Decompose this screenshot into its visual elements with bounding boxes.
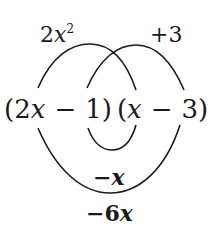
second-factor-var: x — [127, 94, 142, 124]
first-product-coef: 2 — [40, 22, 54, 47]
second-factor-op: − — [151, 94, 173, 124]
second-factor-close-paren: ) — [198, 94, 208, 124]
inner-product-label: −x — [93, 166, 125, 188]
first-factor-const: 1 — [85, 94, 102, 124]
second-factor: (x−3) — [117, 94, 208, 124]
second-factor-const: 3 — [182, 94, 199, 124]
outer-product-coef: 6 — [104, 200, 119, 226]
outer-product-sign: − — [86, 200, 104, 226]
first-factor-open-paren: ( — [4, 94, 14, 124]
last-terms-arc — [87, 45, 184, 90]
last-product-label: +3 — [150, 24, 182, 46]
first-product-var: x — [54, 22, 66, 47]
outer-product-label: −6x — [86, 202, 133, 224]
factors-row: (2x−1)(x−3) — [4, 96, 208, 122]
first-product-exponent: 2 — [66, 22, 74, 36]
first-terms-arc — [38, 44, 136, 90]
first-factor: (2x−1) — [4, 94, 112, 124]
outer-product-var: x — [120, 200, 133, 226]
first-factor-var: x — [31, 94, 46, 124]
first-factor-op: − — [54, 94, 76, 124]
inner-product-var: x — [111, 164, 124, 190]
inner-product-sign: − — [93, 164, 111, 190]
first-product-label: 2x2 — [40, 24, 74, 46]
second-factor-open-paren: ( — [117, 94, 127, 124]
inner-terms-arc — [88, 125, 136, 150]
first-factor-coef: 2 — [14, 94, 31, 124]
first-factor-close-paren: ) — [102, 94, 112, 124]
